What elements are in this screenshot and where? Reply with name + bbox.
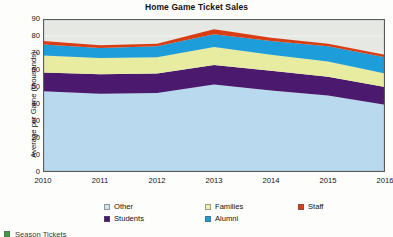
y-tick-label: 10 [20, 151, 40, 159]
x-axis-ticks: 2010201120122013201420152016 [43, 176, 385, 188]
legend-item-staff[interactable]: Staff [298, 203, 323, 211]
legend-label: Alumni [215, 215, 238, 223]
x-tick-label: 2013 [206, 176, 223, 185]
legend-label: Families [215, 203, 243, 211]
chart-legend: OtherFamiliesStaffStudentsAlumni [104, 203, 354, 229]
x-tick-label: 2010 [35, 176, 52, 185]
legend-swatch-icon [298, 204, 304, 210]
legend-label: Other [114, 203, 133, 211]
x-tick-label: 2014 [263, 176, 280, 185]
cut-off-swatch-icon [4, 231, 10, 237]
y-tick-label: 0 [20, 168, 40, 176]
legend-label: Students [114, 215, 144, 223]
y-tick-label: 90 [20, 15, 40, 23]
y-tick-label: 80 [20, 32, 40, 40]
legend-swatch-icon [104, 204, 110, 210]
x-tick-label: 2011 [92, 176, 108, 185]
legend-swatch-icon [104, 216, 110, 222]
y-tick-label: 40 [20, 100, 40, 108]
legend-item-alumni[interactable]: Alumni [205, 215, 238, 223]
chart-title: Home Game Ticket Sales [0, 2, 393, 12]
cut-off-label: Season Tickets [15, 231, 67, 237]
legend-item-families[interactable]: Families [205, 203, 243, 211]
stacked-area-plot [43, 19, 385, 172]
y-tick-label: 70 [20, 49, 40, 57]
cut-off-legend-row: Season Tickets [4, 231, 164, 237]
legend-swatch-icon [205, 204, 211, 210]
legend-label: Staff [308, 203, 323, 211]
chart-container: Home Game Ticket Sales Average per Game … [0, 0, 393, 237]
x-tick-label: 2015 [320, 176, 337, 185]
legend-item-other[interactable]: Other [104, 203, 133, 211]
y-tick-label: 50 [20, 83, 40, 91]
legend-swatch-icon [205, 216, 211, 222]
x-tick-label: 2016 [377, 176, 393, 185]
y-axis-ticks: 0102030405060708090 [18, 19, 40, 172]
legend-item-students[interactable]: Students [104, 215, 144, 223]
y-tick-label: 60 [20, 66, 40, 74]
plot-area [43, 19, 385, 172]
y-tick-label: 30 [20, 117, 40, 125]
x-tick-label: 2012 [149, 176, 166, 185]
y-tick-label: 20 [20, 134, 40, 142]
area-band-other [43, 84, 385, 172]
